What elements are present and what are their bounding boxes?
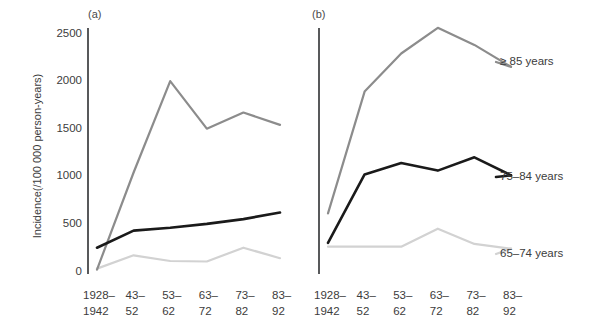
series-label-65-74-years: 65–74 years	[500, 247, 563, 259]
x-tick-label-73-82: 73–82	[466, 288, 485, 319]
x-tick-label-83-92: 83–92	[503, 288, 522, 319]
x-tick-label-1928-1942: 1928–1942	[83, 288, 115, 319]
x-tick-label-53-62: 53–62	[393, 288, 412, 319]
x-tick-label-63-72: 63–72	[199, 288, 218, 319]
x-tick-label-1928-1942: 1928–1942	[314, 288, 346, 319]
x-tick-label-73-82: 73–82	[235, 288, 254, 319]
panel-a-label: (a)	[88, 8, 101, 20]
series-line-75-84	[97, 213, 280, 248]
panel-b-y-axis-line	[318, 28, 320, 274]
y-tick-label-0: 0	[76, 266, 82, 278]
series-line-65-74	[328, 229, 511, 249]
series-label-ge-85-years: ≥ 85 years	[500, 55, 554, 67]
panel-b-label: (b)	[312, 8, 325, 20]
series-label-75-84-years: 75–84 years	[500, 170, 563, 182]
x-tick-label-53-62: 53–62	[162, 288, 181, 319]
series-line-75-84	[328, 157, 511, 243]
x-tick-label-43-52: 43–52	[126, 288, 145, 319]
y-axis-tick-labels: 05001000150020002500	[38, 0, 82, 335]
y-tick-label-2500: 2500	[56, 28, 82, 40]
y-tick-label-1000: 1000	[56, 170, 82, 182]
figure-root: (a) (b) Incidence(/100 000 person-years)…	[0, 0, 590, 335]
x-tick-label-83-92: 83–92	[272, 288, 291, 319]
series-line-85	[328, 28, 511, 214]
y-tick-label-500: 500	[63, 218, 82, 230]
panel-a-y-axis-line	[87, 28, 89, 274]
x-tick-label-43-52: 43–52	[357, 288, 376, 319]
series-line-65-74	[97, 248, 280, 269]
y-tick-label-2000: 2000	[56, 75, 82, 87]
series-line-85	[97, 81, 280, 270]
y-tick-label-1500: 1500	[56, 123, 82, 135]
x-tick-label-63-72: 63–72	[430, 288, 449, 319]
